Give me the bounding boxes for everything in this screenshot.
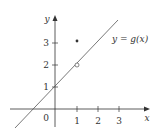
y-tick-label-2: 2 bbox=[43, 60, 49, 70]
open-circle-point bbox=[75, 63, 79, 67]
x-tick-label-3: 3 bbox=[116, 116, 122, 126]
x-axis-arrow-icon bbox=[144, 107, 150, 112]
chart-figure: 1 2 3 1 2 3 0 x y y = g(x) bbox=[0, 0, 160, 137]
y-tick-label-3: 3 bbox=[43, 38, 49, 48]
x-axis-label: x bbox=[144, 113, 149, 123]
origin-label: 0 bbox=[43, 113, 49, 123]
filled-point bbox=[76, 40, 79, 43]
function-line bbox=[15, 20, 118, 128]
y-tick-label-1: 1 bbox=[43, 82, 49, 92]
function-label: y = g(x) bbox=[111, 34, 149, 44]
y-axis-label: y bbox=[43, 14, 50, 24]
x-tick-label-1: 1 bbox=[74, 116, 80, 126]
x-tick-label-2: 2 bbox=[95, 116, 101, 126]
y-axis-arrow-icon bbox=[53, 15, 58, 21]
